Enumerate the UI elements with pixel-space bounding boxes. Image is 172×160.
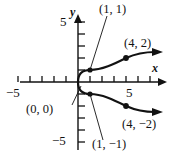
- x-axis-label: x: [152, 62, 158, 74]
- leader-line-1-neg1: [90, 94, 103, 140]
- upper-branch-arrowhead: [152, 48, 163, 56]
- y-axis-label: y: [70, 6, 75, 18]
- x-axis-ticks: [18, 76, 150, 82]
- annotation-point-1-1: (1, 1): [99, 3, 126, 16]
- x-tick-label-5: 5: [126, 86, 133, 99]
- x-axis: [18, 76, 167, 86]
- annotation-point-4-neg2: (4, −2): [122, 118, 156, 131]
- x-axis-arrowhead: [158, 78, 167, 86]
- parabola-lower-branch: [78, 82, 155, 112]
- leader-line-1-1: [90, 16, 107, 70]
- annotation-point-0-0: (0, 0): [26, 103, 53, 116]
- lower-branch-arrowhead: [152, 108, 163, 116]
- annotation-point-4-2: (4, 2): [124, 37, 151, 50]
- y-tick-label-5: 5: [60, 15, 67, 28]
- y-tick-label-neg5: −5: [52, 134, 66, 147]
- marker-point-4-2: [123, 55, 129, 61]
- marker-point-1-1: [87, 67, 92, 72]
- marker-point-4-neg2: [123, 103, 129, 109]
- annotation-point-1-neg1: (1, −1): [92, 138, 126, 151]
- x-tick-label-neg5: −5: [6, 86, 20, 99]
- marker-point-1-neg1: [87, 91, 92, 96]
- parabola-graph-figure: y x 5 −5 −5 5 (1, 1) (4, 2) (0, 0) (4, −…: [0, 0, 172, 160]
- graph-canvas: [0, 0, 172, 160]
